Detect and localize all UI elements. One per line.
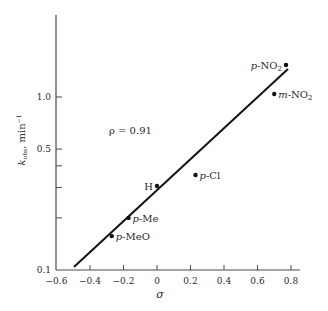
y-ticks: 0.10.51.0 [37,92,62,275]
y-tick-label: 1.0 [37,92,52,102]
point-label: m-NO2 [278,89,312,102]
data-point [155,184,159,188]
x-axis-label: σ [156,288,164,301]
x-tick-label: 0.8 [284,276,299,286]
y-label-units: , min [16,123,27,149]
x-ticks: −0.6−0.4−0.200.20.40.60.8 [46,265,299,286]
svg-text:kobs, min−1: kobs, min−1 [15,115,28,166]
fit-line [74,69,288,267]
y-axis-label: kobs, min−1 [15,115,28,166]
axes [56,15,300,270]
point-label: p-Cl [200,170,221,181]
x-tick-label: −0.6 [46,276,68,286]
y-tick-label: 0.5 [37,144,52,154]
x-tick-label: −0.4 [79,276,101,286]
point-label: p-MeO [116,231,150,242]
y-tick-label: 0.1 [37,265,51,275]
y-label-sup: −1 [15,115,22,124]
point-label: p-Me [133,213,159,224]
data-point [126,216,130,220]
data-point [272,92,276,96]
x-tick-label: 0.2 [183,276,197,286]
rho-annotation: ρ = 0.91 [109,125,152,136]
data-point [110,234,114,238]
data-points: p-MeOp-MeHp-Clm-NO2p-NO2 [110,60,313,242]
y-label-sub: obs [21,149,28,160]
x-tick-label: 0.6 [250,276,265,286]
data-point [284,63,288,67]
x-tick-label: −0.2 [113,276,135,286]
x-tick-label: 0.4 [217,276,232,286]
data-point [193,173,197,177]
x-tick-label: 0 [154,276,160,286]
hammett-plot: −0.6−0.4−0.200.20.40.60.8 0.10.51.0 p-Me… [0,0,328,311]
point-label: p-NO2 [251,60,282,73]
point-label: H [144,181,153,192]
